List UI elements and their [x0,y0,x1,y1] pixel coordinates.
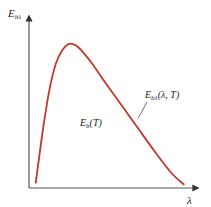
y-axis-label: Ebλ [7,7,21,21]
area-label: Eb(T) [79,117,103,130]
curve-label-leader [138,102,147,118]
area-label-rest: (T) [90,117,103,129]
spectral-curve [36,44,185,185]
curve-label: Ebλ(λ, T) [144,89,180,102]
x-axis-label: λ [186,194,192,206]
y-axis-label-sub: bλ [15,13,22,21]
blackbody-diagram: Ebλ λ Ebλ(λ, T) Eb(T) [0,0,211,207]
area-label-main: E [79,117,86,128]
curve-label-rest: (λ, T) [158,89,180,101]
curve-label-main: E [144,89,151,100]
